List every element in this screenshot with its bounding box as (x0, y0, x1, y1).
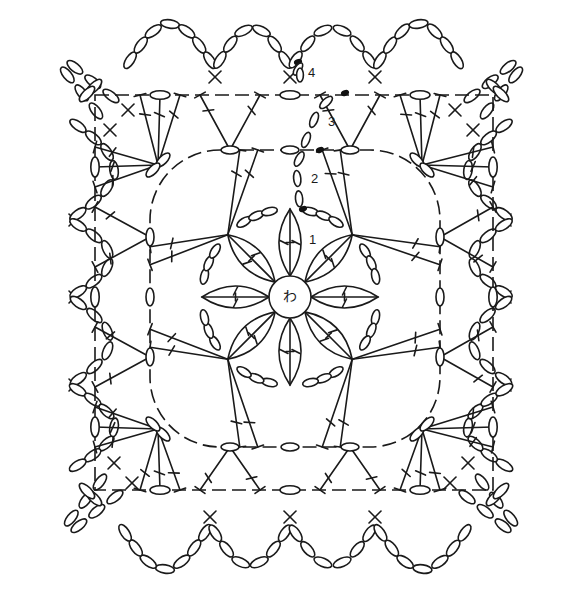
chain-stitch-icon (150, 91, 170, 99)
chain-stitch-icon (494, 117, 514, 135)
chain-stitch-icon (91, 472, 109, 492)
magic-ring-label: わ (283, 289, 297, 303)
chain-stitch-icon (235, 365, 253, 380)
chain-stitch-icon (199, 309, 210, 326)
chain-stitch-icon (160, 18, 180, 29)
chain-stitch-icon (280, 91, 300, 99)
chain-stitch-icon (208, 242, 223, 260)
chain-stitch-icon (298, 34, 317, 54)
chain-stitch-icon (221, 34, 239, 54)
chain-stitch-icon (293, 170, 302, 187)
chain-stitch-icon (489, 287, 497, 307)
chain-stitch-icon (302, 377, 319, 388)
chain-stitch-icon (332, 23, 353, 38)
chain-stitch-icon (410, 486, 430, 494)
chain-stitch-icon (83, 129, 103, 148)
chain-stitch-icon (143, 22, 163, 40)
chain-stitch-icon (221, 146, 239, 154)
chain-stitch-icon (312, 555, 333, 570)
chain-stitch-icon (436, 288, 444, 306)
chain-stitch-icon (478, 357, 498, 376)
chain-stitch-icon (448, 50, 465, 71)
chain-stitch-icon (101, 87, 121, 105)
chain-stitch-icon (332, 555, 353, 570)
chain-stitch-icon (233, 23, 254, 39)
chain-stitch-icon (341, 443, 359, 451)
chain-stitch-icon (436, 348, 444, 366)
round-label-2: 2 (311, 172, 318, 185)
chain-stitch-icon (327, 215, 345, 230)
chain-stitch-icon (91, 287, 99, 307)
chain-stitch-icon (341, 146, 359, 154)
chain-stitch-icon (261, 206, 278, 217)
chain-stitch-icon (230, 555, 251, 571)
chain-stitch-icon (67, 457, 88, 474)
chain-stitch-icon (150, 486, 170, 494)
chain-stitch-icon (146, 228, 154, 246)
chain-stitch-icon (467, 321, 482, 342)
chain-stitch-icon (413, 564, 433, 575)
chain-stitch-icon (308, 111, 321, 129)
round-label-3: 3 (328, 115, 335, 128)
chain-stitch-icon (116, 523, 133, 543)
chain-stitch-icon (87, 101, 105, 121)
chain-stitch-icon (408, 18, 428, 29)
chain-stitch-icon (155, 563, 175, 574)
chain-stitch-icon (84, 227, 104, 245)
chain-stitch-icon (280, 486, 300, 494)
chain-stitch-icon (100, 340, 115, 361)
chain-stitch-icon (146, 348, 154, 366)
chain-stitch-icon (462, 87, 482, 105)
chain-stitch-icon (348, 34, 367, 54)
chain-stitch-icon (410, 91, 430, 99)
chain-stitch-icon (249, 555, 270, 571)
chain-stitch-icon (491, 481, 511, 501)
chain-stitch-icon (91, 157, 99, 177)
chain-stitch-icon (478, 306, 498, 325)
chain-stitch-icon (430, 553, 450, 571)
round-label-4: 4 (308, 66, 315, 79)
chain-stitch-icon (312, 23, 333, 38)
chain-stitch-icon (348, 539, 367, 559)
chain-stitch-icon (489, 417, 497, 437)
chain-stitch-icon (281, 146, 299, 154)
round-start-markers (291, 58, 349, 213)
chain-stitch-icon (146, 288, 154, 306)
chain-stitch-icon (436, 228, 444, 246)
chain-stitch-icon (221, 443, 239, 451)
round-label-1: 1 (309, 233, 316, 246)
chain-stitch-icon (370, 268, 381, 285)
chain-stitch-icon (489, 157, 497, 177)
chain-stitch-icon (298, 539, 317, 559)
chain-stitch-icon (91, 417, 99, 437)
chain-stitch-icon (172, 553, 192, 571)
chain-stitch-icon (264, 539, 283, 559)
chain-stitch-icon (473, 472, 491, 492)
chain-stitch-icon (300, 131, 313, 149)
chain-stitch-icon (297, 68, 304, 82)
chain-stitch-icon (358, 334, 373, 352)
chain-stitch-icon (281, 443, 299, 451)
chain-stitch-icon (467, 340, 482, 361)
chain-stitch-icon (295, 191, 304, 208)
slip-stitch-icon (340, 89, 350, 97)
